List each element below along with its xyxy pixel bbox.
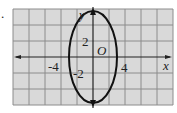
- y-axis-label: y: [77, 7, 85, 22]
- x-tick-label-neg4: -4: [48, 59, 59, 74]
- problem-bullet: .: [1, 6, 4, 21]
- x-tick-label-4: 4: [121, 60, 128, 75]
- origin-label: O: [97, 43, 107, 58]
- y-tick-label-2: 2: [82, 34, 89, 49]
- x-axis-label: x: [162, 58, 169, 73]
- ellipse-graph: . y x O 2 -2 -4 4: [0, 0, 177, 113]
- y-tick-label-neg2: -2: [73, 66, 84, 81]
